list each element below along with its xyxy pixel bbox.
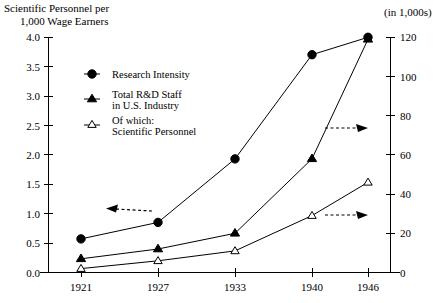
- y-axis-title-line1: Scientific Personnel per: [4, 2, 109, 14]
- y2-tick-label: 40: [400, 188, 412, 200]
- y-tick-label: 1.5: [26, 178, 40, 190]
- x-tick-label: 1946: [357, 281, 380, 293]
- legend-item-research-intensity: Research Intensity: [84, 69, 191, 80]
- y2-tick-label: 0: [400, 267, 406, 279]
- x-tick-label: 1940: [301, 281, 324, 293]
- legend-label-total-rd-staff-line1: Total R&D Staff: [112, 89, 182, 100]
- legend-item-scientific-personnel: Of which: Scientific Personnel: [84, 115, 196, 137]
- y-tick-label: 3.5: [26, 61, 40, 73]
- y2-tick-label: 100: [400, 71, 417, 83]
- series-research-intensity: [77, 33, 372, 243]
- filled-triangle-icon: [87, 94, 96, 102]
- y-tick-label: 3.0: [26, 90, 40, 102]
- right-arrow-scientific-personnel: [325, 211, 368, 219]
- left-axis-tick-labels: 0.0 0.5 1.0 1.5 2.0 2.5 3.0 3.5 4.0: [26, 31, 40, 278]
- chart-legend: Research Intensity Total R&D Staff in U.…: [84, 69, 196, 137]
- y2-tick-label: 60: [400, 149, 412, 161]
- x-tick-label: 1927: [147, 281, 170, 293]
- y-tick-label: 4.0: [26, 31, 40, 43]
- y-axis-title-line2: 1,000 Wage Earners: [20, 15, 108, 27]
- right-arrow-total-rd-staff: [325, 124, 368, 132]
- y-tick-label: 2.0: [26, 149, 40, 161]
- y-tick-label: 0.0: [26, 267, 40, 279]
- y-tick-label: 1.0: [26, 208, 40, 220]
- y-tick-label: 0.5: [26, 237, 40, 249]
- y2-tick-label: 20: [400, 227, 412, 239]
- legend-label-scientific-personnel-line2: Scientific Personnel: [112, 126, 196, 137]
- y2-axis-title: (in 1,000s): [384, 6, 432, 19]
- legend-label-total-rd-staff-line2: in U.S. Industry: [112, 100, 180, 111]
- legend-label-research-intensity: Research Intensity: [112, 69, 191, 80]
- open-triangle-icon: [88, 120, 96, 127]
- legend-item-total-rd-staff: Total R&D Staff in U.S. Industry: [84, 89, 182, 111]
- x-tick-label: 1921: [70, 281, 92, 293]
- y2-tick-label: 120: [400, 31, 417, 43]
- right-axis-tick-labels: 0 20 40 60 80 100 120: [400, 31, 417, 278]
- left-arrow-research-intensity: [106, 205, 152, 213]
- legend-label-scientific-personnel-line1: Of which:: [112, 115, 154, 126]
- x-tick-label: 1933: [224, 281, 247, 293]
- chart-container: Scientific Personnel per 1,000 Wage Earn…: [0, 0, 439, 303]
- x-axis-tick-labels: 1921 1927 1933 1940 1946: [70, 281, 380, 293]
- line-chart: Scientific Personnel per 1,000 Wage Earn…: [0, 0, 439, 303]
- y-tick-label: 2.5: [26, 120, 40, 132]
- series-scientific-personnel: [77, 178, 372, 271]
- y2-tick-label: 80: [400, 110, 412, 122]
- filled-circle-icon: [88, 70, 96, 78]
